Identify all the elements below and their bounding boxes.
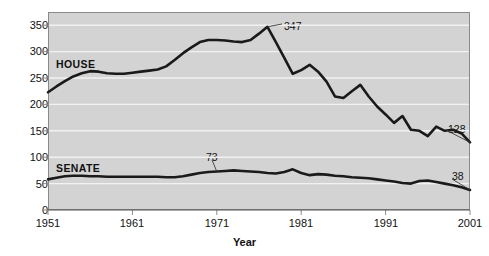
chart-svg — [0, 0, 489, 256]
chart-container: 350 300 250 200 150 100 50 0 1951 1961 1… — [0, 0, 489, 256]
series-line-senate — [48, 169, 470, 190]
series-line-house — [48, 27, 470, 143]
annotation-leader-lines — [212, 24, 470, 190]
gridlines — [49, 25, 469, 183]
